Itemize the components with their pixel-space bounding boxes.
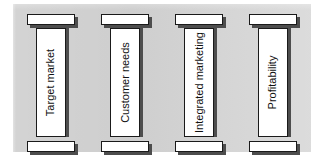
pillar-base <box>175 141 223 152</box>
pillar-capital <box>175 14 223 25</box>
pillar-label: Target market <box>46 49 57 116</box>
pillar-capital <box>27 14 75 25</box>
pillar-shaft: Profitability <box>258 28 288 137</box>
pillar-capital <box>249 14 297 25</box>
pillar-target-market[interactable]: Target market <box>26 4 76 152</box>
pillar-profitability[interactable]: Profitability <box>248 4 298 152</box>
pillar-integrated-marketing[interactable]: Integrated marketing <box>174 4 224 152</box>
pillars-diagram: Target market Customer needs Integrated … <box>0 0 324 164</box>
pillar-base <box>101 141 149 152</box>
pillar-shaft: Target market <box>36 28 66 137</box>
columns-row: Target market Customer needs Integrated … <box>13 4 311 152</box>
pillar-label: Customer needs <box>120 42 131 123</box>
pillar-shaft: Integrated marketing <box>184 28 214 137</box>
pillar-label: Profitability <box>268 56 279 110</box>
pillar-shaft: Customer needs <box>110 28 140 137</box>
pillar-base <box>249 141 297 152</box>
pillar-customer-needs[interactable]: Customer needs <box>100 4 150 152</box>
pillar-base <box>27 141 75 152</box>
pillar-label: Integrated marketing <box>194 32 205 133</box>
pillar-capital <box>101 14 149 25</box>
